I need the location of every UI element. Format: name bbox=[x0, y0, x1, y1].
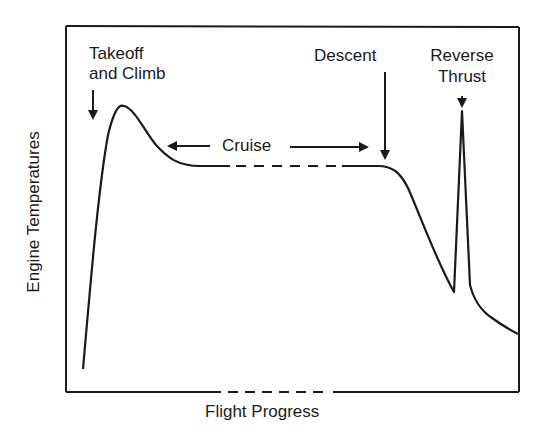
descent-label: Descent bbox=[314, 46, 376, 66]
x-axis-label: Flight Progress bbox=[205, 402, 319, 422]
reverse-thrust-label-line2: Thrust bbox=[418, 67, 506, 87]
annotation-arrows bbox=[93, 72, 462, 158]
frame-top bbox=[66, 26, 519, 27]
temperature-curve bbox=[83, 106, 518, 369]
reverse-thrust-label-line1: Reverse bbox=[418, 46, 506, 66]
curve-descent-reverse bbox=[342, 111, 518, 334]
cruise-label: Cruise bbox=[222, 136, 271, 156]
y-axis-label: Engine Temperatures bbox=[24, 131, 44, 292]
takeoff-label-line1: Takeoff bbox=[89, 44, 144, 64]
takeoff-label-line2: and Climb bbox=[89, 64, 166, 84]
